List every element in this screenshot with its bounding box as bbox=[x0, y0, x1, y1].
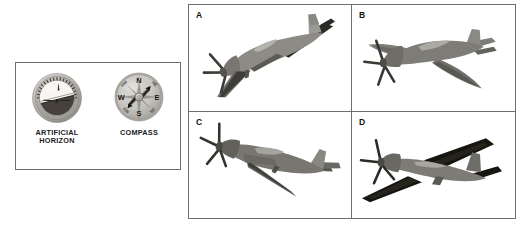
aircraft-panel-d[interactable]: D bbox=[352, 112, 515, 219]
aircraft-panel-a[interactable]: A bbox=[189, 5, 352, 111]
artificial-horizon-dial bbox=[29, 69, 85, 125]
compass-label-line1: COMPASS bbox=[98, 129, 180, 137]
compass-instrument: NE SE SW NW bbox=[98, 69, 180, 175]
artificial-horizon-instrument: ARTIFICIAL HORIZON bbox=[16, 69, 98, 175]
artificial-horizon-label-line2: HORIZON bbox=[16, 137, 98, 145]
aircraft-panel-c[interactable]: C bbox=[189, 112, 352, 219]
panel-letter-a: A bbox=[196, 10, 202, 20]
aircraft-c-illustration bbox=[189, 112, 351, 219]
aircraft-a-illustration bbox=[189, 5, 351, 111]
compass-cardinal-s: S bbox=[137, 109, 142, 118]
aircraft-grid-row-bottom: C bbox=[189, 112, 515, 219]
compass-label: COMPASS bbox=[98, 129, 180, 137]
aircraft-panel-b[interactable]: B bbox=[352, 5, 515, 111]
aircraft-b-illustration bbox=[352, 5, 515, 111]
panel-letter-c: C bbox=[196, 117, 202, 127]
instrument-panel-box: ARTIFICIAL HORIZON bbox=[15, 62, 181, 170]
panel-letter-d: D bbox=[359, 117, 365, 127]
compass-cardinal-w: W bbox=[118, 93, 125, 102]
aircraft-d-illustration bbox=[352, 112, 515, 219]
aircraft-attitude-grid: A bbox=[188, 4, 516, 219]
compass-graphic: NE SE SW NW bbox=[113, 71, 165, 123]
aircraft-grid-row-top: A bbox=[189, 5, 515, 112]
compass-cardinal-e: E bbox=[155, 93, 160, 102]
panel-letter-b: B bbox=[359, 10, 365, 20]
compass-dial: NE SE SW NW bbox=[113, 71, 165, 123]
artificial-horizon-graphic bbox=[29, 69, 85, 125]
artificial-horizon-label: ARTIFICIAL HORIZON bbox=[16, 129, 98, 146]
